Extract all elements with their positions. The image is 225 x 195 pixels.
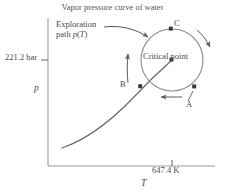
figure-canvas: [0, 0, 225, 195]
point-a-marker: [192, 84, 196, 88]
axes: [41, 18, 215, 166]
figure-title: Vapor pressure curve of water: [0, 3, 225, 13]
exploration-leader-arrow: [104, 26, 148, 37]
exploration-path-label-line2-prefix: path: [56, 29, 73, 39]
y-axis-tick-label: 221.2 bar: [5, 53, 37, 63]
point-c-marker: [169, 27, 173, 31]
exploration-path-label: Exploration path p(T): [56, 20, 96, 39]
y-axis-name: p: [34, 83, 39, 94]
point-b-marker: [138, 84, 142, 88]
x-axis-tick-label: 647.4 K: [152, 166, 179, 176]
critical-point-label: Critical point: [143, 52, 188, 62]
vapor-pressure-curve: [62, 60, 172, 148]
x-axis-name: T: [141, 178, 146, 189]
exploration-path-label-line1: Exploration: [56, 19, 96, 29]
point-a-label: A: [186, 100, 192, 110]
vapor-pressure-figure: Vapor pressure curve of water 221.2 bar …: [0, 0, 225, 195]
direction-arrow-left-up: [127, 54, 128, 83]
point-b-label: B: [120, 80, 126, 90]
point-c-label: C: [174, 19, 180, 29]
exploration-path-label-paren-close: ): [85, 29, 88, 39]
